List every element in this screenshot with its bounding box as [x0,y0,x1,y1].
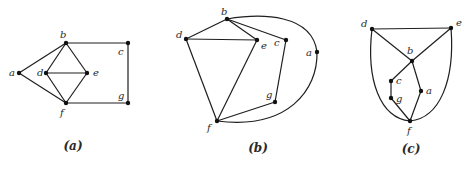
vertex-label-g: g [396,93,402,104]
vertex-c [389,79,393,83]
vertex-b [410,59,414,63]
vertex-label-a: a [9,67,15,78]
vertex-label-a: a [426,85,432,96]
edge-d-e [186,39,257,40]
graph-panel-a: abcdefg(a) [9,29,130,153]
graph-panel-b: abcdefg(b) [176,6,319,155]
graph-figure: abcdefg(a) abcdefg(b) abcdefg(c) [0,0,466,169]
vertex-label-c: c [118,46,124,57]
vertex-label-c: c [396,75,402,86]
vertex-label-a: a [306,47,312,58]
vertex-label-b: b [221,6,227,17]
vertex-label-e: e [261,40,267,51]
vertex-f [215,119,219,123]
edge-b-d [186,19,227,39]
vertex-e [85,71,89,75]
vertex-b [225,17,229,21]
edge-e-f [217,40,257,121]
edge-b-e [227,19,257,40]
curved-edge-a-f [217,52,317,122]
vertex-f [408,119,412,123]
vertex-e [449,26,453,30]
vertex-label-d: d [37,67,43,78]
panel-caption-a: (a) [63,139,82,153]
edge-e-f [66,73,87,103]
vertex-label-f: f [59,107,66,118]
edge-d-f [46,73,66,103]
vertex-a [315,50,319,54]
edge-d-b [372,29,412,61]
curved-edge-d-f [371,29,410,121]
panel-caption-b: (b) [248,141,268,155]
vertex-label-g: g [118,90,124,101]
vertex-d [184,37,188,41]
vertex-label-b: b [60,29,66,40]
vertex-label-f: f [206,122,213,133]
vertex-b [64,41,68,45]
edge-b-a [412,61,421,91]
vertex-label-f: f [406,125,413,136]
edge-e-b [412,28,451,61]
vertex-g [273,100,277,104]
vertex-a [17,71,21,75]
vertex-label-e: e [93,67,99,78]
vertex-f [64,101,68,105]
vertex-g [126,101,130,105]
edge-c-g [275,40,286,102]
vertex-c [284,38,288,42]
edge-d-f [186,39,217,121]
vertex-e [255,38,259,42]
vertex-a [419,89,423,93]
edge-d-e [372,28,451,29]
graph-panel-c: abcdefg(c) [361,17,462,156]
vertex-c [126,41,130,45]
vertex-label-d: d [176,29,182,40]
panel-caption-c: (c) [402,142,421,156]
vertex-label-d: d [361,18,367,29]
curved-edge-b-a [227,16,317,52]
vertex-d [44,71,48,75]
vertex-label-g: g [266,89,272,100]
vertex-label-b: b [407,45,413,56]
edge-a-f [410,91,421,121]
edge-b-e [66,43,87,73]
vertex-label-e: e [456,17,462,28]
vertex-label-c: c [274,37,280,48]
vertex-g [389,96,393,100]
vertex-d [370,27,374,31]
edge-b-d [46,43,66,73]
